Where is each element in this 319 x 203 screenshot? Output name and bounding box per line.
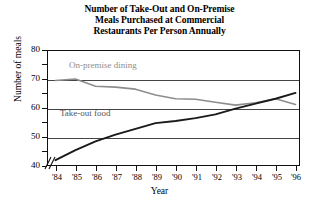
series-label-on-premise-dining: On-premise dining (69, 60, 137, 70)
series-lines (0, 0, 319, 203)
series-label-take-out-food: Take-out food (60, 108, 111, 118)
series-line-on-premise-dining (56, 79, 296, 105)
series-line-take-out-food (56, 93, 296, 160)
chart-container: Number of Take-Out and On-Premise Meals … (0, 0, 319, 203)
x-axis-label: Year (0, 186, 319, 196)
